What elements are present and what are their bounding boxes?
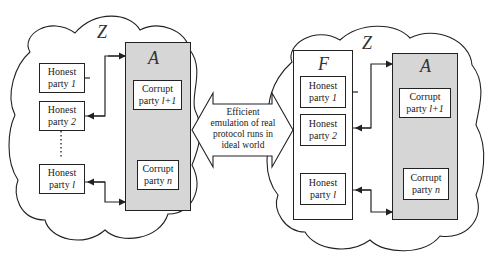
right-adversary-symbol: A [420,56,431,77]
party-label: Honest [40,104,84,116]
party-label: Honest [301,118,345,130]
party-sub: party n [138,175,178,187]
left-adversary-symbol: A [148,48,159,69]
emulation-caption: Efficient emulation of real protocol run… [208,107,278,151]
party-label: Honest [40,66,84,78]
party-label: Honest [301,177,345,189]
party-sub: party n [404,184,448,196]
left-honest-party-1: Honest party 1 [39,63,85,93]
party-label: Corrupt [400,91,450,103]
left-corrupt-party-l-plus-1: Corrupt party l+1 [133,80,182,110]
right-honest-party-l: Honest party l [300,173,346,205]
functionality-symbol: F [318,54,329,75]
right-honest-party-1: Honest party 1 [300,76,346,108]
party-sub: party 2 [40,116,84,128]
right-corrupt-party-n: Corrupt party n [403,168,449,200]
right-honest-party-2: Honest party 2 [300,114,346,146]
party-sub: party l [40,179,84,191]
party-sub: party l [301,189,345,201]
left-environment-symbol: Z [97,22,107,43]
right-corrupt-party-l-plus-1: Corrupt party l+1 [399,88,451,118]
party-label: Corrupt [138,163,178,175]
party-sub: party l+1 [400,103,450,115]
left-honest-party-l: Honest party l [39,164,85,194]
party-sub: party 1 [40,78,84,90]
left-honest-party-2: Honest party 2 [39,101,85,131]
left-corrupt-party-n: Corrupt party n [137,160,179,190]
party-sub: party 2 [301,130,345,142]
party-label: Corrupt [134,83,181,95]
party-label: Honest [301,80,345,92]
party-label: Corrupt [404,172,448,184]
right-environment-symbol: Z [362,33,372,54]
party-sub: party 1 [301,92,345,104]
party-label: Honest [40,167,84,179]
party-sub: party l+1 [134,95,181,107]
